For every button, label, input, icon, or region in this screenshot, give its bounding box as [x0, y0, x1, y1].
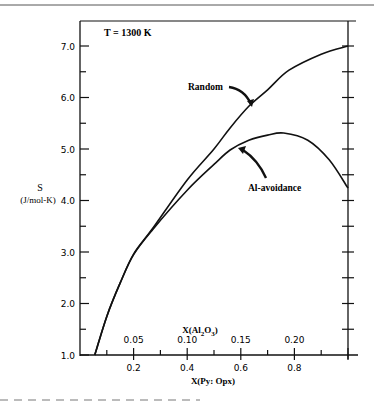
- y-tick-label: 4.0: [61, 196, 76, 206]
- y-tick-label: 2.0: [61, 299, 76, 309]
- random-label: Random: [188, 82, 223, 92]
- temperature-label: T = 1300 K: [104, 27, 152, 38]
- x-tick-label: 0.8: [287, 363, 302, 373]
- x2-tick-label: 0.05: [124, 335, 144, 345]
- y-tick-label: 3.0: [61, 248, 76, 258]
- y-tick-label: 1.0: [61, 351, 76, 361]
- x-axis-label: X(Py: Opx): [191, 376, 235, 386]
- x-tick-label: 0.2: [126, 363, 140, 373]
- y-tick-label: 5.0: [61, 145, 76, 155]
- y-tick-label: 6.0: [61, 93, 76, 103]
- entropy-chart: 1.02.03.04.05.06.07.00.20.40.60.80.050.1…: [0, 0, 374, 402]
- curves: [95, 46, 348, 355]
- x-tick-label: 0.6: [234, 363, 249, 373]
- x2-tick-label: 0.15: [231, 335, 251, 345]
- al-avoidance-arrow-icon: [243, 150, 266, 178]
- al-avoidance-label: Al-avoidance: [248, 183, 301, 193]
- y-axis-units: (J/mol-K): [20, 195, 56, 205]
- series-random: [95, 46, 348, 355]
- x2-tick-label: 0.20: [284, 335, 304, 345]
- y-axis-symbol: S: [37, 182, 43, 193]
- x2-tick-label: 0.10: [177, 335, 197, 345]
- y-tick-label: 7.0: [61, 42, 76, 52]
- x-tick-label: 0.4: [180, 363, 195, 373]
- series-al-avoidance: [95, 133, 348, 355]
